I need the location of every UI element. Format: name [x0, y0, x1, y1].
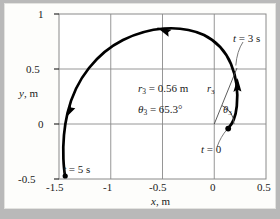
theta3-subscript: 3	[143, 108, 147, 117]
t-five-label: t = 5 s	[63, 164, 90, 175]
t-three-symbol: t	[233, 32, 236, 44]
x-axis-title: x, m	[151, 196, 170, 207]
ytick-label-0: 0	[38, 119, 44, 130]
theta3-value-annotation: θ3 = 65.3°	[138, 104, 183, 117]
r3-vector-label: r3	[207, 84, 215, 96]
t-five-symbol: t	[63, 163, 66, 175]
xtick-label-0: 0	[210, 182, 216, 193]
theta3-arc-subscript: 3	[228, 109, 232, 117]
ytick-label-0.5: 0.5	[26, 64, 40, 75]
r3-value-text: = 0.56 m	[149, 82, 189, 94]
xtick-label--1.5: -1.5	[46, 182, 63, 193]
xtick-label--1: -1	[103, 182, 112, 193]
figure-container: 1 0.5 0 -0.5 -1.5 -1 -0.5 0 0.5 y, m x, …	[4, 3, 276, 209]
t-zero-text: = 0	[207, 143, 221, 155]
ytick-label--0.5: -0.5	[18, 174, 35, 185]
t-three-label: t = 3 s	[233, 33, 260, 44]
t-zero-symbol: t	[201, 143, 204, 155]
theta3-value-text: = 65.3°	[150, 103, 183, 115]
t-zero-label: t = 0	[201, 144, 221, 155]
y-tick-marks	[54, 14, 59, 179]
r3-subscript: 3	[142, 87, 146, 96]
t-three-text: = 3 s	[239, 32, 260, 44]
y-axis-title: y, m	[19, 88, 38, 99]
t-zero-marker	[225, 126, 231, 132]
r3-value-annotation: r3 = 0.56 m	[138, 83, 188, 96]
ytick-label-1: 1	[38, 9, 44, 20]
xtick-label-0.5: 0.5	[257, 182, 271, 193]
r3-vector-subscript: 3	[211, 88, 215, 96]
t-five-text: = 5 s	[69, 163, 90, 175]
theta3-arc-label: θ3	[223, 105, 232, 117]
xtick-label--0.5: -0.5	[149, 182, 166, 193]
